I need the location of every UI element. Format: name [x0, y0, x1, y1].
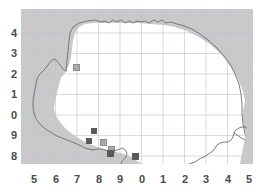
x-axis-tick-label: 0	[135, 174, 149, 185]
occurrence-marker-dark	[107, 150, 114, 157]
x-axis-tick-label: 9	[113, 174, 127, 185]
y-axis-tick-label: 2	[3, 69, 17, 80]
occurrence-marker-dark	[91, 128, 97, 134]
x-axis-tick-label: 3	[199, 174, 213, 185]
x-axis-tick-label: 1	[156, 174, 170, 185]
y-axis-tick-label: 0	[3, 110, 17, 121]
plot-area	[21, 9, 253, 164]
y-axis-tick-label: 1	[3, 89, 17, 100]
x-axis-tick-label: 5	[27, 174, 41, 185]
y-axis-tick-label: 8	[3, 151, 17, 162]
x-axis-tick-label: 6	[49, 174, 63, 185]
y-axis-tick-label: 3	[3, 48, 17, 59]
map-canvas	[21, 9, 253, 164]
y-axis-tick-label: 4	[3, 28, 17, 39]
x-axis-tick-label: 8	[92, 174, 106, 185]
x-axis-tick-label: 5	[242, 174, 256, 185]
occurrence-marker-light	[73, 64, 80, 71]
distribution-map-figure: 4 3 2 1 0 9 8 5 6 7 8 9 0 1 2 3 4 5	[0, 0, 274, 194]
x-axis-tick-label: 2	[178, 174, 192, 185]
occurrence-marker-dark	[132, 153, 139, 160]
occurrence-marker-dark	[86, 138, 92, 144]
y-axis-tick-label: 9	[3, 130, 17, 141]
occurrence-marker-light	[100, 139, 107, 146]
x-axis-tick-label: 4	[221, 174, 235, 185]
x-axis-tick-label: 7	[70, 174, 84, 185]
